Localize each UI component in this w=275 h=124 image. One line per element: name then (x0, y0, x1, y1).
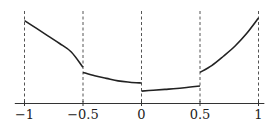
x-tick-label: −0.5 (67, 107, 99, 122)
x-tick-label: 0.5 (190, 107, 211, 122)
curve-piece-3 (142, 86, 201, 91)
curve-piece-4 (200, 18, 259, 72)
x-tick-label: 0 (137, 107, 145, 122)
x-tick-labels: −1 −0.5 0 0.5 1 (15, 107, 263, 122)
x-tick-label: 1 (254, 107, 262, 122)
curve-piece-1 (25, 21, 84, 68)
piecewise-function-chart: −1 −0.5 0 0.5 1 (0, 0, 275, 124)
curve-piece-2 (83, 72, 142, 83)
x-tick-label: −1 (15, 107, 34, 122)
